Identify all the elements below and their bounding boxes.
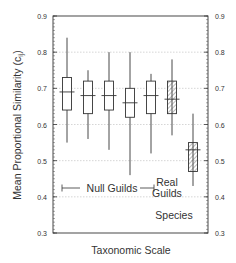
- y-tick-label-right: 0.8: [215, 49, 225, 56]
- box-3: [102, 52, 117, 150]
- y-tick-label-left: 0.5: [37, 158, 47, 165]
- box-4: [123, 52, 138, 175]
- iqr-box: [84, 81, 93, 114]
- y-axis-label: Mean Proportional Similarity (cij): [11, 50, 25, 200]
- null-guilds-label: Null Guilds: [87, 182, 138, 194]
- y-tick-label-right: 0.7: [215, 85, 225, 92]
- x-axis-label: Taxonomic Scale: [91, 244, 171, 256]
- y-tick-label-right: 0.9: [215, 13, 225, 20]
- iqr-box: [147, 81, 156, 114]
- real-guilds-label-line2: Guilds: [152, 187, 182, 199]
- plot-frame: [53, 16, 208, 233]
- y-tick-label-left: 0.3: [37, 230, 47, 237]
- iqr-box: [63, 77, 72, 110]
- y-tick-label-left: 0.7: [37, 85, 47, 92]
- y-tick-label-right: 0.4: [215, 194, 225, 201]
- box-5: [144, 74, 159, 154]
- box-6: [165, 59, 180, 135]
- box-series: [60, 38, 201, 186]
- axes: 0.30.30.40.40.50.50.60.60.70.70.80.80.90…: [37, 13, 225, 237]
- annotations: Null Guilds Real Guilds Species: [62, 176, 193, 221]
- y-tick-label-right: 0.3: [215, 230, 225, 237]
- gridlines: [53, 52, 208, 197]
- box-1: [60, 38, 75, 143]
- iqr-box: [168, 81, 177, 114]
- y-tick-label-left: 0.8: [37, 49, 47, 56]
- y-tick-label-left: 0.6: [37, 122, 47, 129]
- y-tick-label-left: 0.4: [37, 194, 47, 201]
- species-label: Species: [155, 209, 192, 221]
- y-tick-label-right: 0.5: [215, 158, 225, 165]
- boxplot-chart: 0.30.30.40.40.50.50.60.60.70.70.80.80.90…: [0, 0, 236, 263]
- y-tick-label-left: 0.9: [37, 13, 47, 20]
- y-tick-label-right: 0.6: [215, 122, 225, 129]
- iqr-box: [189, 143, 198, 172]
- box-2: [81, 70, 96, 139]
